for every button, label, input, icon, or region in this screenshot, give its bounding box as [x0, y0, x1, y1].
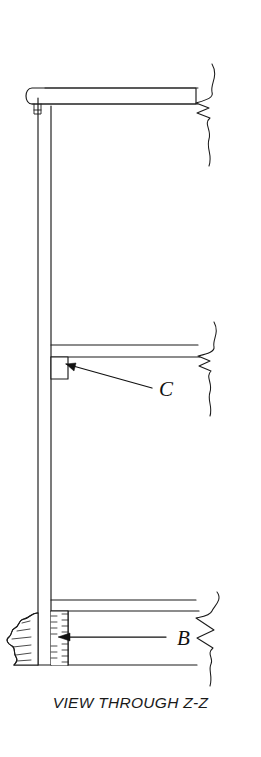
- leader-line-b: [58, 633, 166, 641]
- vertical-column: [38, 98, 51, 665]
- middle-horizontal-beam: [51, 345, 200, 357]
- break-line-middle: [198, 322, 216, 416]
- break-line-bottom: [196, 592, 219, 686]
- figure-caption: VIEW THROUGH Z-Z: [0, 694, 261, 712]
- ground-break-region: [7, 613, 38, 665]
- bracket-detail-c: [51, 357, 68, 379]
- leader-line-c: [66, 363, 152, 388]
- top-horizontal-beam: [26, 88, 198, 114]
- label-b: B: [177, 626, 190, 650]
- technical-drawing-figure: C: [0, 0, 261, 757]
- section-view-drawing: C: [0, 0, 261, 757]
- bottom-slab-region: [14, 611, 197, 665]
- break-line-top: [196, 64, 215, 166]
- bottom-horizontal-beam: [51, 600, 199, 611]
- label-c: C: [159, 377, 174, 401]
